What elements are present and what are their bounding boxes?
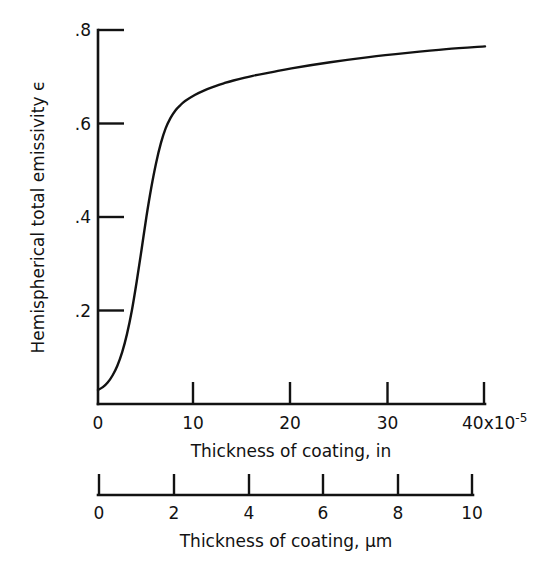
emissivity-chart: .8 .6 .4 .2 Hemispherical total emissivi… <box>0 0 552 580</box>
y-tick-label-0.2: .2 <box>75 301 91 321</box>
x-tick-label-40-in-exponent: 40x10-5 <box>462 411 527 433</box>
y-tick-label-0.6: .6 <box>75 114 91 134</box>
x-tick-label-4-um: 4 <box>244 503 255 523</box>
data-series-curve <box>98 46 485 390</box>
y-axis-title: Hemispherical total emissivity ϵ <box>28 81 48 354</box>
x-tick-label-10-in: 10 <box>182 413 204 433</box>
x-tick-labels-secondary: 0 2 4 6 8 10 <box>94 503 483 523</box>
x-tick-label-2-um: 2 <box>169 503 180 523</box>
y-tick-label-0.4: .4 <box>75 207 91 227</box>
x-axis-title-primary: Thickness of coating, in <box>190 441 392 461</box>
x-tick-label-20-in: 20 <box>279 413 301 433</box>
figure-container: .8 .6 .4 .2 Hemispherical total emissivi… <box>0 0 552 580</box>
x-tick-label-8-um: 8 <box>393 503 404 523</box>
x-tick-label-0-in: 0 <box>93 413 104 433</box>
y-axis-group <box>98 30 124 404</box>
exponent-superscript: -5 <box>515 411 527 425</box>
x-tick-labels-primary: 0 10 20 30 40x10-5 <box>93 411 528 433</box>
x-tick-label-6-um: 6 <box>318 503 329 523</box>
y-tick-label-0.8: .8 <box>75 20 91 40</box>
x-axis-primary-group <box>98 382 485 404</box>
x-axis-title-secondary: Thickness of coating, µm <box>179 531 393 551</box>
x-tick-label-0-um: 0 <box>94 503 105 523</box>
x-axis-secondary-group <box>98 474 473 495</box>
x-tick-label-30-in: 30 <box>377 413 399 433</box>
y-tick-labels: .8 .6 .4 .2 <box>75 20 91 321</box>
x-tick-label-10-um: 10 <box>461 503 483 523</box>
exponent-mantissa: 40x10 <box>462 413 515 433</box>
